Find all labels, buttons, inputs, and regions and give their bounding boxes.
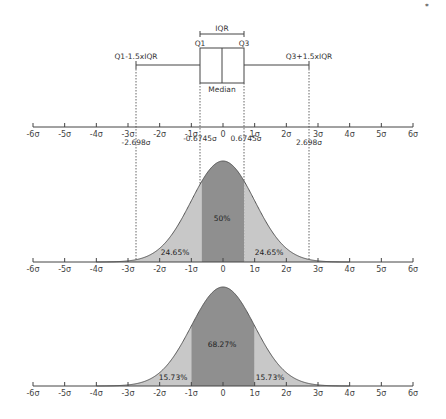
q3-label: Q3 <box>239 39 250 48</box>
axis-tick-label: 3σ <box>313 389 323 398</box>
axis-tick-label: 0 <box>220 265 225 274</box>
left-sigma-label: 15.73% <box>159 373 188 382</box>
q1-label: Q1 <box>195 39 206 48</box>
right-sigma-label: 15.73% <box>256 373 285 382</box>
axis-tick-label: -3σ <box>121 389 134 398</box>
corner-mark: * <box>425 2 429 11</box>
normal-distribution-diagram: * IQR Q1 Q3 Median Q1-1.5xIQR Q3+1.5xIQR… <box>0 0 446 419</box>
iqr-label: IQR <box>215 24 228 33</box>
axis-tick-label: -3σ <box>121 265 134 274</box>
axis-tick-label: 2σ <box>281 265 291 274</box>
axis-tick-label: 0 <box>220 389 225 398</box>
axis-tick-label: -6σ <box>26 389 39 398</box>
axis-tick-label: -5σ <box>58 130 71 139</box>
center-50-label: 50% <box>214 214 231 223</box>
axis-tick-label: 5σ <box>376 389 386 398</box>
axis-tick-label: 6σ <box>408 130 418 139</box>
lower-fence-annotation: -2.698σ <box>122 138 151 147</box>
axis-tick-label: -4σ <box>90 389 103 398</box>
axis-tick-label: -1σ <box>185 389 198 398</box>
boxplot: IQR Q1 Q3 Median Q1-1.5xIQR Q3+1.5xIQR <box>114 24 332 94</box>
axis-tick-label: 5σ <box>376 130 386 139</box>
axis-tick-label: -5σ <box>58 265 71 274</box>
median-label: Median <box>208 85 236 94</box>
left-quartile-label: 24.65% <box>161 248 190 257</box>
axis-tick-label: 3σ <box>313 265 323 274</box>
axis-tick-label: 0 <box>220 130 225 139</box>
axis-tick-label: 5σ <box>376 265 386 274</box>
axis-tick-label: -4σ <box>90 265 103 274</box>
axis-tick-label: -2σ <box>153 265 166 274</box>
q3-annotation: 0.6745σ <box>231 134 262 143</box>
upper-fence-annotation: 2.698σ <box>296 138 322 147</box>
lower-whisker-label: Q1-1.5xIQR <box>114 52 157 61</box>
axis-tick-label: 2σ <box>281 389 291 398</box>
axis-tick-label: 6σ <box>408 389 418 398</box>
center-6827-label: 68.27% <box>208 340 237 349</box>
axis-tick-label: 1σ <box>250 265 260 274</box>
axis-tick-label: 6σ <box>408 265 418 274</box>
axis-tick-label: 1σ <box>250 389 260 398</box>
axis-tick-label: -5σ <box>58 389 71 398</box>
axis-tick-label: 2σ <box>281 130 291 139</box>
axis-tick-label: -6σ <box>26 265 39 274</box>
axis-tick-label: -1σ <box>185 265 198 274</box>
axis-tick-label: 4σ <box>345 130 355 139</box>
q1-annotation: -0.6745σ <box>183 134 217 143</box>
sigma-density-panel <box>96 287 349 386</box>
axis-tick-label: -6σ <box>26 130 39 139</box>
axis-tick-label: -2σ <box>153 389 166 398</box>
sigma-axis-top: -6σ-5σ-4σ-3σ-2σ-1σ01σ2σ3σ4σ5σ6σ <box>26 123 418 139</box>
quartile-density-panel <box>96 161 349 262</box>
axis-tick-label: 4σ <box>345 389 355 398</box>
upper-whisker-label: Q3+1.5xIQR <box>286 52 333 61</box>
axis-tick-label: -2σ <box>153 130 166 139</box>
right-quartile-label: 24.65% <box>255 248 284 257</box>
axis-tick-label: 4σ <box>345 265 355 274</box>
axis-tick-label: -4σ <box>90 130 103 139</box>
